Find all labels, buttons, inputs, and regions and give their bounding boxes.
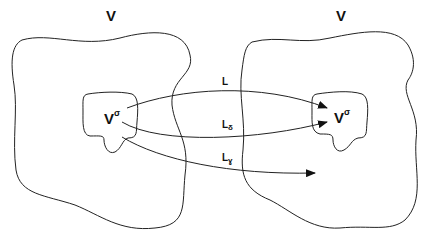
left-subset-label: Vσ xyxy=(104,111,120,126)
right-subset-base: V xyxy=(334,109,344,126)
arrow-L-gamma-sub: ɣ xyxy=(228,156,232,165)
right-subset-label: Vσ xyxy=(334,110,350,125)
left-space-outline xyxy=(12,33,191,229)
left-subset-base: V xyxy=(104,110,114,127)
arrow-L-label: L xyxy=(222,77,228,87)
diagram-shapes xyxy=(0,0,430,239)
left-subset-sup: σ xyxy=(114,108,120,118)
arrow-L xyxy=(127,91,327,108)
right-space-label: V xyxy=(336,8,346,23)
arrow-L-gamma-label: Lɣ xyxy=(222,153,233,163)
arrow-L-gamma xyxy=(122,137,315,173)
right-space-outline xyxy=(241,32,417,228)
diagram-canvas: V V Vσ Vσ L Lδ Lɣ xyxy=(0,0,430,239)
arrow-L-delta-label: Lδ xyxy=(222,120,233,130)
arrow-L-base: L xyxy=(222,76,228,87)
arrow-L-delta-sub: δ xyxy=(228,123,233,132)
left-space-label: V xyxy=(106,8,116,23)
right-subset-sup: σ xyxy=(344,107,350,117)
